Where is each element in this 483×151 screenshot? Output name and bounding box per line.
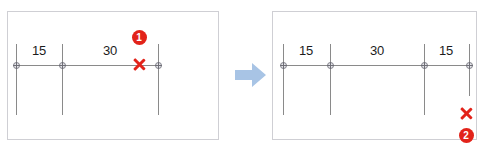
dimension-label: 30 [370,43,384,58]
extension-line [158,44,159,115]
x-mark-icon [459,106,474,121]
dimension-node[interactable] [466,62,473,69]
dimension-node[interactable] [13,62,20,69]
dimension-node[interactable] [421,62,428,69]
extension-line [469,44,470,96]
dimension-node[interactable] [280,62,287,69]
extension-line [62,44,63,115]
transition-arrow-right-icon [235,62,267,88]
extension-line [330,44,331,115]
panel-after [272,11,477,140]
dimension-label: 15 [299,43,313,58]
callout-badge-1: 1 [132,30,147,45]
extension-line [424,44,425,115]
extension-line [16,44,17,115]
panel-before [7,11,219,140]
x-mark-icon [132,57,147,72]
dimension-label: 15 [439,43,453,58]
dimension-label: 15 [32,43,46,58]
clipped-header-text: ▪ ▪ ▪ ▪ ▪ [6,0,59,2]
callout-badge-2: 2 [459,128,474,143]
extension-line [283,44,284,115]
dimension-node[interactable] [155,62,162,69]
dimension-line [283,65,469,66]
dimension-node[interactable] [327,62,334,69]
figure-canvas: ▪ ▪ ▪ ▪ ▪ 15 30 1 15 30 15 2 [0,0,483,151]
dimension-label: 30 [103,43,117,58]
dimension-node[interactable] [59,62,66,69]
